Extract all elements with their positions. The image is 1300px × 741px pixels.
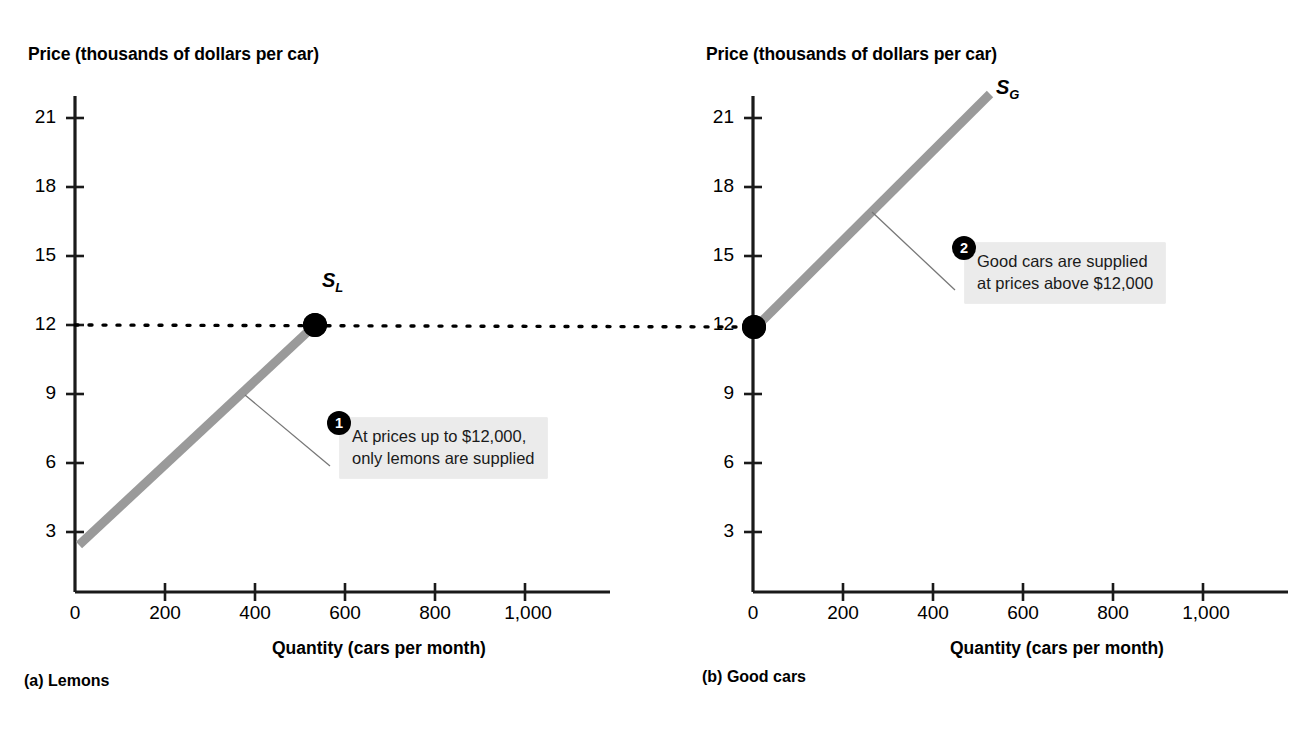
x-tick-label-800: 800 bbox=[1078, 602, 1148, 624]
y-tick-label-6: 6 bbox=[692, 451, 734, 473]
x-tick-label-400: 400 bbox=[898, 602, 968, 624]
callout-leader-line bbox=[245, 395, 330, 466]
y-tick-label-9: 9 bbox=[692, 382, 734, 404]
chart-canvas-lemons bbox=[0, 0, 650, 741]
y-tick-label-12: 12 bbox=[14, 313, 56, 335]
y-tick-label-21: 21 bbox=[692, 106, 734, 128]
figure-lemons-and-good-cars: Price (thousands of dollars per car) bbox=[0, 0, 1300, 741]
good-cars-origin-marker bbox=[742, 315, 766, 339]
curve-label-letter: S bbox=[996, 76, 1009, 98]
y-tick-label-3: 3 bbox=[14, 520, 56, 542]
chart-panel-good-cars: Price (thousands of dollars per car) bbox=[650, 0, 1300, 741]
callout-line-1: Good cars are supplied bbox=[977, 250, 1153, 272]
curve-label-good-cars: SG bbox=[996, 76, 1019, 102]
x-tick-label-800: 800 bbox=[400, 602, 470, 624]
chart-panel-lemons: Price (thousands of dollars per car) bbox=[0, 0, 650, 741]
curve-label-letter: S bbox=[322, 269, 335, 291]
x-tick-label-400: 400 bbox=[220, 602, 290, 624]
x-tick-label-600: 600 bbox=[988, 602, 1058, 624]
callout-box-good-cars: Good cars are supplied at prices above $… bbox=[965, 243, 1165, 303]
curve-label-subscript: L bbox=[335, 280, 343, 295]
curve-label-lemons: SL bbox=[322, 269, 343, 295]
x-axis-title: Quantity (cars per month) bbox=[950, 638, 1164, 659]
callout-box-lemons: At prices up to $12,000, only lemons are… bbox=[340, 418, 547, 478]
x-tick-label-0: 0 bbox=[40, 602, 110, 624]
y-tick-label-18: 18 bbox=[692, 175, 734, 197]
y-tick-label-12: 12 bbox=[692, 313, 734, 335]
callout-line-2: at prices above $12,000 bbox=[977, 272, 1153, 294]
x-tick-label-1000: 1,000 bbox=[488, 602, 568, 624]
y-tick-label-3: 3 bbox=[692, 520, 734, 542]
y-tick-label-6: 6 bbox=[14, 451, 56, 473]
callout-line-2: only lemons are supplied bbox=[352, 447, 535, 469]
chart-canvas-good-cars bbox=[650, 0, 1300, 741]
supply-curve-lemons bbox=[79, 325, 315, 545]
curve-label-subscript: G bbox=[1009, 87, 1019, 102]
x-axis-title: Quantity (cars per month) bbox=[272, 638, 486, 659]
y-tick-label-18: 18 bbox=[14, 175, 56, 197]
panel-caption-lemons: (a) Lemons bbox=[24, 672, 109, 690]
x-tick-label-600: 600 bbox=[310, 602, 380, 624]
y-tick-label-15: 15 bbox=[14, 244, 56, 266]
callout-leader-line bbox=[872, 212, 955, 290]
callout-badge-2: 2 bbox=[952, 236, 976, 260]
x-tick-label-200: 200 bbox=[808, 602, 878, 624]
x-tick-label-1000: 1,000 bbox=[1166, 602, 1246, 624]
y-tick-label-21: 21 bbox=[14, 106, 56, 128]
x-tick-label-200: 200 bbox=[130, 602, 200, 624]
y-tick-label-15: 15 bbox=[692, 244, 734, 266]
callout-badge-1: 1 bbox=[327, 411, 351, 435]
panel-caption-good-cars: (b) Good cars bbox=[702, 668, 806, 686]
x-tick-label-0: 0 bbox=[718, 602, 788, 624]
lemons-endpoint-marker bbox=[303, 313, 327, 337]
supply-curve-good-cars bbox=[756, 94, 990, 327]
y-tick-label-9: 9 bbox=[14, 382, 56, 404]
callout-line-1: At prices up to $12,000, bbox=[352, 425, 535, 447]
